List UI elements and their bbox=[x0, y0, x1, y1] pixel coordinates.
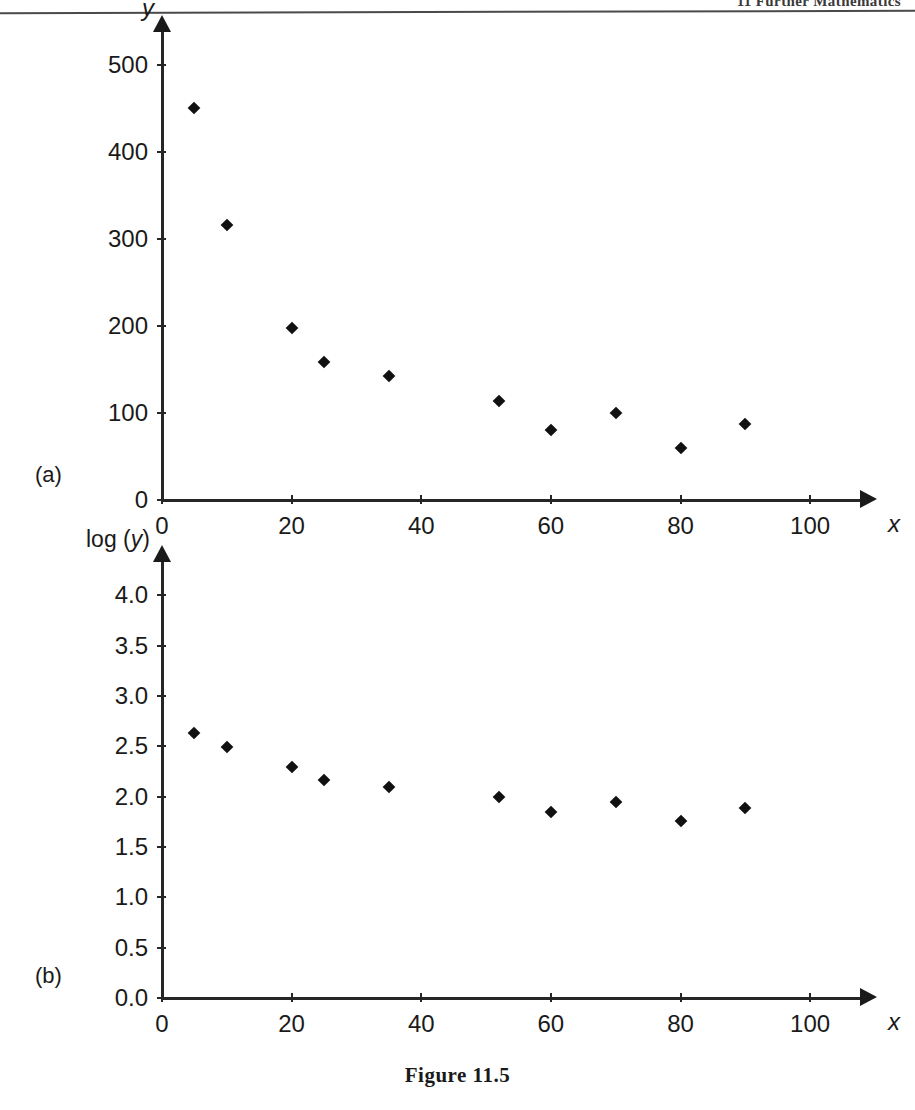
y-axis-tick bbox=[157, 645, 166, 647]
data-point-marker bbox=[609, 407, 622, 420]
y-axis-tick bbox=[157, 896, 166, 898]
y-axis-tick bbox=[157, 947, 166, 949]
x-axis-tick bbox=[680, 993, 682, 1002]
chart-panel-b: 0.00.51.01.52.02.53.03.54.0020406080100x… bbox=[162, 560, 862, 998]
data-point-marker bbox=[220, 219, 233, 232]
x-axis-tick bbox=[809, 495, 811, 504]
x-axis-tick bbox=[550, 993, 552, 1002]
data-point-marker bbox=[382, 780, 395, 793]
scatter-plot-b: 0.00.51.01.52.02.53.03.54.0020406080100x… bbox=[162, 560, 862, 998]
y-axis-line bbox=[161, 30, 164, 500]
x-axis-tick bbox=[291, 495, 293, 504]
x-axis-tick bbox=[161, 495, 163, 504]
y-axis-label: log (y) bbox=[86, 526, 150, 553]
y-axis-tick bbox=[157, 238, 166, 240]
x-axis-tick bbox=[680, 495, 682, 504]
x-axis-tick-label: 0 bbox=[155, 512, 168, 540]
x-axis-tick-label: 40 bbox=[408, 512, 435, 540]
data-point-marker bbox=[220, 741, 233, 754]
figure-caption: Figure 11.5 bbox=[0, 1063, 915, 1088]
x-axis-tick-label: 100 bbox=[790, 512, 830, 540]
y-axis-tick bbox=[157, 64, 166, 66]
y-axis-tick-label: 1.5 bbox=[58, 833, 148, 861]
x-axis-tick-label: 60 bbox=[538, 1010, 565, 1038]
x-axis-tick bbox=[809, 993, 811, 1002]
x-axis-tick bbox=[161, 993, 163, 1002]
data-point-marker bbox=[318, 356, 331, 369]
data-point-marker bbox=[493, 790, 506, 803]
y-axis-tick bbox=[157, 846, 166, 848]
y-axis-tick-label: 3.5 bbox=[58, 632, 148, 660]
data-point-marker bbox=[188, 727, 201, 740]
x-axis-tick-label: 0 bbox=[155, 1010, 168, 1038]
y-axis-tick-label: 3.0 bbox=[58, 682, 148, 710]
x-axis-tick-label: 100 bbox=[790, 1010, 830, 1038]
x-axis-arrow-icon bbox=[860, 490, 877, 508]
panel-label-b: (b) bbox=[35, 963, 62, 989]
data-point-marker bbox=[285, 761, 298, 774]
x-axis-label: x bbox=[888, 1008, 900, 1036]
x-axis-tick-label: 60 bbox=[538, 512, 565, 540]
y-axis-tick bbox=[157, 412, 166, 414]
y-axis-tick bbox=[157, 325, 166, 327]
data-point-marker bbox=[382, 370, 395, 383]
scatter-plot-a: 0100200300400500020406080100xy bbox=[162, 30, 862, 500]
data-point-marker bbox=[493, 394, 506, 407]
data-point-marker bbox=[609, 795, 622, 808]
header-rule bbox=[0, 10, 915, 14]
data-point-marker bbox=[545, 424, 558, 437]
data-point-marker bbox=[318, 773, 331, 786]
data-point-marker bbox=[674, 814, 687, 827]
y-axis-tick bbox=[157, 745, 166, 747]
y-axis-tick-label: 100 bbox=[58, 399, 148, 427]
x-axis-tick bbox=[291, 993, 293, 1002]
x-axis-tick bbox=[550, 495, 552, 504]
y-axis-tick-label: 0 bbox=[58, 486, 148, 514]
y-axis-tick-label: 4.0 bbox=[58, 581, 148, 609]
y-axis-label: y bbox=[142, 0, 154, 22]
x-axis-tick bbox=[420, 993, 422, 1002]
y-axis-tick bbox=[157, 151, 166, 153]
data-point-marker bbox=[739, 801, 752, 814]
x-axis-tick-label: 80 bbox=[667, 512, 694, 540]
data-point-marker bbox=[545, 805, 558, 818]
running-header: 11 Further Mathematics bbox=[737, 0, 901, 10]
x-axis-label: x bbox=[888, 510, 900, 538]
x-axis-line bbox=[162, 997, 862, 1000]
chart-panel-a: 0100200300400500020406080100xy bbox=[162, 30, 862, 500]
y-axis-tick-label: 400 bbox=[58, 138, 148, 166]
data-point-marker bbox=[188, 102, 201, 115]
y-axis-tick-label: 500 bbox=[58, 51, 148, 79]
x-axis-tick-label: 20 bbox=[278, 512, 305, 540]
x-axis-line bbox=[162, 499, 862, 502]
y-axis-tick-label: 1.0 bbox=[58, 883, 148, 911]
data-point-marker bbox=[674, 441, 687, 454]
x-axis-tick-label: 80 bbox=[667, 1010, 694, 1038]
y-axis-tick-label: 200 bbox=[58, 312, 148, 340]
data-point-marker bbox=[739, 418, 752, 431]
x-axis-tick-label: 20 bbox=[278, 1010, 305, 1038]
y-axis-tick-label: 0.0 bbox=[58, 984, 148, 1012]
y-axis-tick bbox=[157, 594, 166, 596]
data-point-marker bbox=[285, 321, 298, 334]
y-axis-tick-label: 2.0 bbox=[58, 783, 148, 811]
y-axis-tick-label: 300 bbox=[58, 225, 148, 253]
x-axis-arrow-icon bbox=[860, 988, 877, 1006]
y-axis-tick bbox=[157, 796, 166, 798]
y-axis-tick bbox=[157, 695, 166, 697]
y-axis-arrow-icon bbox=[153, 545, 171, 562]
y-axis-line bbox=[161, 560, 164, 998]
y-axis-tick-label: 2.5 bbox=[58, 732, 148, 760]
x-axis-tick bbox=[420, 495, 422, 504]
y-axis-arrow-icon bbox=[153, 15, 171, 32]
x-axis-tick-label: 40 bbox=[408, 1010, 435, 1038]
y-axis-tick-label: 0.5 bbox=[58, 934, 148, 962]
figure-page: 11 Further Mathematics 01002003004005000… bbox=[0, 0, 915, 1110]
panel-label-a: (a) bbox=[35, 462, 62, 488]
